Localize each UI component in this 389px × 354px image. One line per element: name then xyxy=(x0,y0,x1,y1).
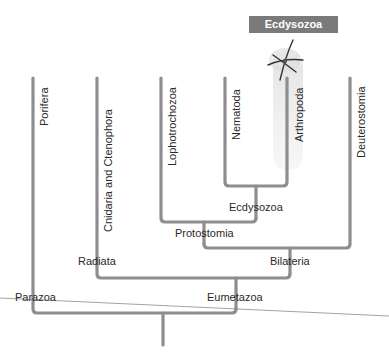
taxon-label-porifera: Porifera xyxy=(38,87,50,126)
node-label-bilateria: Bilateria xyxy=(270,255,310,267)
node-label-eumetazoa: Eumetazoa xyxy=(207,291,263,303)
tree-branches xyxy=(0,0,389,354)
taxon-label-arthropoda: Arthropoda xyxy=(293,88,305,142)
phylogenetic-tree: Ecdysozoa Porifera Cnidaria and Ctenopho… xyxy=(0,0,389,354)
taxon-label-nematoda: Nematoda xyxy=(230,89,242,140)
taxon-label-cnidaria-ctenophora: Cnidaria and Ctenophora xyxy=(102,109,114,232)
node-label-ecdysozoa: Ecdysozoa xyxy=(229,201,283,213)
node-label-protostomia: Protostomia xyxy=(175,227,234,239)
node-label-parazoa: Parazoa xyxy=(15,291,56,303)
taxon-label-lophotrochozoa: Lophotrochozoa xyxy=(166,87,178,166)
taxon-label-deuterostomia: Deuterostomia xyxy=(355,86,367,158)
node-label-radiata: Radiata xyxy=(78,255,116,267)
ecdysozoa-header-badge: Ecdysozoa xyxy=(249,16,338,33)
